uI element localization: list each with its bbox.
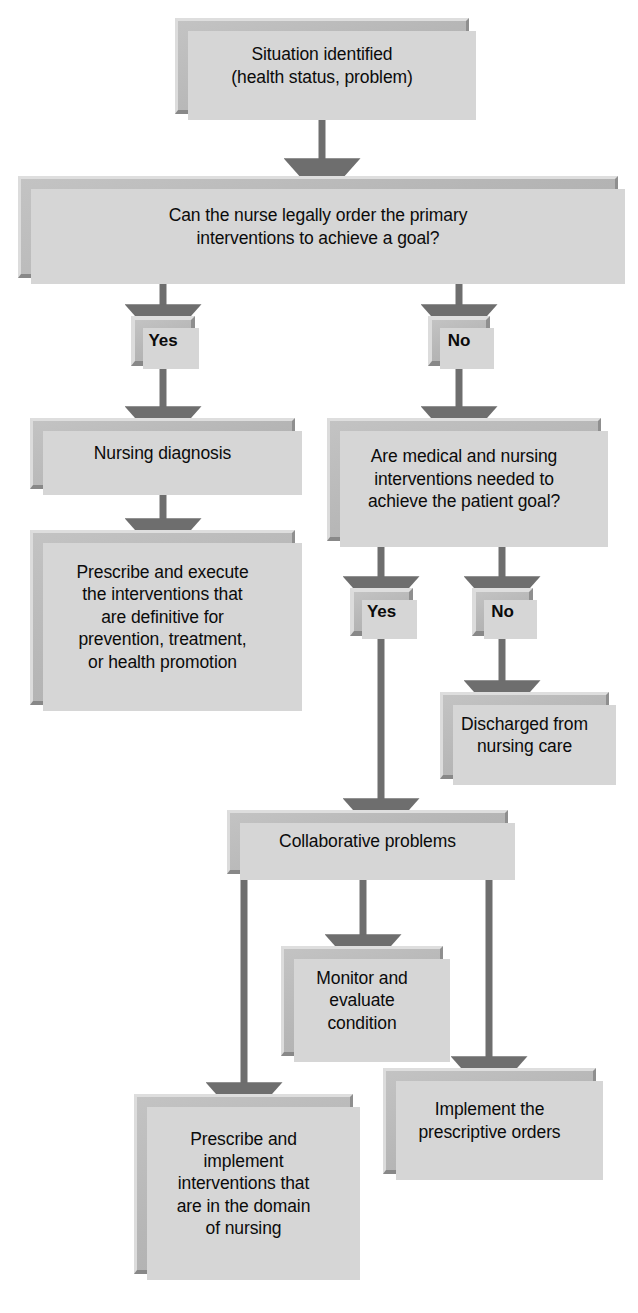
node-nursing-diagnosis[interactable]: Nursing diagnosis [30, 418, 295, 489]
node-collaborative-problems[interactable]: Collaborative problems [227, 810, 508, 874]
chip-yes-medical-nursing[interactable]: Yes [350, 588, 413, 636]
node-implement-prescriptive-orders[interactable]: Implement the prescriptive orders [383, 1068, 596, 1174]
chip-no-medical-nursing-label: No [485, 601, 519, 623]
node-prescribe-and-implement-label: Prescribe and implement interventions th… [171, 1128, 317, 1240]
node-implement-prescriptive-orders-label: Implement the prescriptive orders [412, 1098, 566, 1143]
node-collaborative-problems-label: Collaborative problems [273, 830, 462, 852]
node-monitor-evaluate-condition-label: Monitor and evaluate condition [310, 967, 413, 1034]
node-legal-order-question[interactable]: Can the nurse legally order the primary … [18, 176, 618, 278]
node-discharged-from-nursing-care[interactable]: Discharged from nursing care [440, 692, 609, 779]
node-legal-order-question-label: Can the nurse legally order the primary … [163, 204, 474, 249]
flowchart-canvas: Situation identified (health status, pro… [0, 0, 638, 1313]
chip-yes-medical-nursing-label: Yes [361, 601, 402, 623]
chip-no-legal-order[interactable]: No [428, 316, 490, 366]
node-nursing-diagnosis-label: Nursing diagnosis [88, 442, 237, 464]
chip-no-medical-nursing[interactable]: No [472, 588, 533, 636]
node-prescribe-and-execute-label: Prescribe and execute the interventions … [70, 561, 254, 673]
chip-yes-legal-order[interactable]: Yes [131, 316, 195, 366]
node-medical-nursing-question-label: Are medical and nursing interventions ne… [362, 445, 566, 512]
chip-yes-legal-order-label: Yes [142, 330, 183, 352]
node-situation-identified-label: Situation identified (health status, pro… [225, 43, 418, 88]
node-prescribe-and-execute[interactable]: Prescribe and execute the interventions … [30, 530, 295, 705]
node-prescribe-and-implement[interactable]: Prescribe and implement interventions th… [134, 1094, 353, 1274]
node-discharged-from-nursing-care-label: Discharged from nursing care [455, 713, 594, 758]
chip-no-legal-order-label: No [442, 330, 476, 352]
node-medical-nursing-question[interactable]: Are medical and nursing interventions ne… [327, 418, 601, 541]
node-situation-identified[interactable]: Situation identified (health status, pro… [175, 18, 469, 114]
node-monitor-evaluate-condition[interactable]: Monitor and evaluate condition [281, 946, 443, 1056]
